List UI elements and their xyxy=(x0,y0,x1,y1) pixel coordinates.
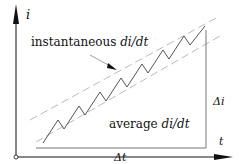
di-dt-diagram: i instantaneous di/dt average di/dt Δt Δ… xyxy=(0,0,239,164)
x-axis-label: t xyxy=(219,136,223,147)
instantaneous-label: instantaneous di/dt xyxy=(31,36,148,48)
instantaneous-pointer xyxy=(90,55,117,70)
y-axis xyxy=(13,4,19,157)
average-expr: di/dt xyxy=(162,117,190,131)
average-prefix: average xyxy=(109,117,162,131)
pointer-arrow-icon xyxy=(107,63,117,70)
origin-marker-icon xyxy=(14,155,18,159)
instantaneous-expr: di/dt xyxy=(120,35,148,49)
delta-i-label: Δi xyxy=(213,96,224,107)
average-label: average di/dt xyxy=(109,118,190,130)
y-axis-label: i xyxy=(26,8,30,21)
instantaneous-prefix: instantaneous xyxy=(31,35,120,49)
delta-t-label: Δt xyxy=(114,152,126,163)
x-axis-arrow-icon xyxy=(214,154,233,160)
y-axis-arrow-icon xyxy=(13,4,19,24)
